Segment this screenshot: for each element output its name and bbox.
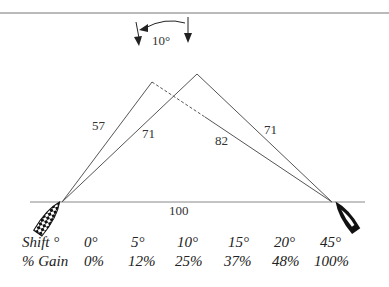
shift-value: 0° (84, 234, 98, 251)
gain-row-header: % Gain (22, 253, 68, 270)
gain-value: 12% (128, 253, 156, 270)
gain-value: 48% (272, 253, 300, 270)
leg-label-57: 57 (92, 118, 105, 134)
gain-value: 0% (84, 253, 104, 270)
shift-value: 45° (320, 234, 341, 251)
shift-value: 5° (131, 234, 145, 251)
shift-value: 20° (274, 234, 295, 251)
right-boat-icon (331, 198, 361, 234)
course-solid (62, 74, 332, 202)
left-boat-icon (33, 199, 64, 236)
baseline-label: 100 (169, 203, 189, 219)
leg-label-71-right: 71 (264, 122, 277, 138)
gain-value: 100% (314, 253, 349, 270)
shift-angle-label: 10° (152, 33, 170, 49)
left-leg-original (62, 82, 152, 202)
gain-value: 37% (224, 253, 252, 270)
leg-label-82: 82 (215, 133, 228, 149)
shift-row-header: Shift ° (22, 234, 59, 251)
gain-value: 25% (175, 253, 203, 270)
dashed-leg (152, 82, 205, 117)
leg-label-71-left: 71 (142, 126, 155, 142)
shift-value: 15° (228, 234, 249, 251)
shift-value: 10° (177, 234, 198, 251)
